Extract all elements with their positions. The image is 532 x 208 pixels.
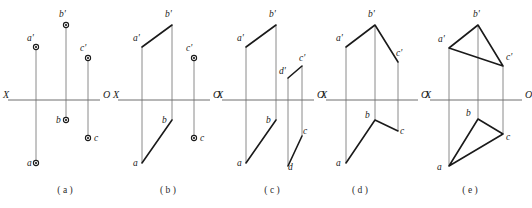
- axis-label-x-b: X: [112, 89, 120, 100]
- edge-a-prime-b-prime-c: [246, 25, 276, 47]
- point-label-c-a: c: [94, 133, 99, 143]
- panel-a: XOb'a'c'bca( a ): [2, 9, 110, 196]
- panel-caption-d: ( d ): [352, 185, 368, 196]
- panel-b: XOc'cb'a'ba( b ): [112, 9, 220, 196]
- vertex-label-b-prime-c: b': [269, 9, 277, 19]
- axis-label-x-c: X: [216, 89, 224, 100]
- vertex-label-b-c: b: [266, 115, 271, 125]
- panel-d: XOb'a'c'bca( d ): [320, 9, 428, 196]
- axis-label-x-a: X: [2, 89, 10, 100]
- vertex-label-a-d: a: [336, 158, 341, 168]
- vertex-label-b-b: b: [162, 115, 167, 125]
- point-label-b-a: b: [56, 115, 61, 125]
- panel-caption-e: ( e ): [462, 185, 477, 196]
- edge-b-a-c: [246, 120, 276, 163]
- axis-label-o-e: O: [525, 89, 532, 100]
- vertex-label-b-e: b: [466, 108, 471, 118]
- orthographic-projection-figure: XOb'a'c'bca( a )XOc'cb'a'ba( b )XOb'a'd'…: [0, 0, 532, 208]
- axis-label-x-d: X: [320, 89, 328, 100]
- point-dot-c-b: [193, 137, 195, 139]
- panel-caption-a: ( a ): [57, 185, 72, 196]
- point-label-c-prime-b: c': [186, 43, 193, 53]
- vertex-label-a-prime-c: a': [237, 33, 245, 43]
- vertex-label-b-d: b: [365, 110, 370, 120]
- vertex-label-a-prime-e: a': [438, 34, 446, 44]
- vertex-label-c-prime-d: c': [396, 48, 403, 58]
- point-dot-a-a: [35, 162, 37, 164]
- axis-label-x-e: X: [424, 89, 432, 100]
- axis-label-o-a: O: [103, 89, 110, 100]
- vertex-label-a-b: a: [133, 158, 138, 168]
- vertex-label-c-c: c: [303, 126, 308, 136]
- point-label-a-a: a: [27, 158, 32, 168]
- vertex-label-c-d: c: [400, 126, 405, 136]
- panel-c: XOb'a'd'c'bcad( c ): [216, 9, 324, 196]
- point-dot-c-a: [87, 137, 89, 139]
- panel-caption-b: ( b ): [160, 185, 176, 196]
- point-label-a-prime-a: a': [27, 33, 35, 43]
- edge-a-prime-b-prime-c-prime-d: [346, 25, 398, 62]
- point-label-c-b: c: [200, 133, 205, 143]
- vertex-label-b-prime-b: b': [165, 9, 173, 19]
- vertex-label-a-e: a: [437, 162, 442, 172]
- edge-a-prime-b-prime-b: [142, 25, 172, 47]
- point-label-b-prime-a: b': [59, 9, 67, 19]
- point-dot-c-prime-b: [193, 57, 195, 59]
- vertex-label-d-prime-c: d': [279, 66, 287, 76]
- edge-b-a-b: [142, 120, 172, 163]
- edge-triangle-lower-e: [449, 119, 503, 166]
- point-dot-a-prime-a: [35, 46, 37, 48]
- panel-caption-c: ( c ): [264, 185, 279, 196]
- vertex-label-c-e: c: [506, 132, 511, 142]
- vertex-label-c-prime-c: c': [299, 53, 306, 63]
- point-dot-b-a: [65, 119, 67, 121]
- vertex-label-a-c: a: [237, 158, 242, 168]
- edge-triangle-upper-e: [449, 25, 503, 66]
- vertex-label-a-prime-b: a': [133, 33, 141, 43]
- vertex-label-b-prime-e: b': [473, 9, 481, 19]
- point-dot-b-prime-a: [65, 24, 67, 26]
- vertex-label-a-prime-d: a': [336, 33, 344, 43]
- figure-canvas: XOb'a'c'bca( a )XOc'cb'a'ba( b )XOb'a'd'…: [0, 0, 532, 208]
- edge-a-b-c-d: [346, 120, 398, 163]
- vertex-label-b-prime-d: b': [368, 9, 376, 19]
- vertex-label-c-prime-e: c': [506, 52, 513, 62]
- panel-e: XOb'a'c'bca( e ): [424, 9, 532, 196]
- vertex-label-d-c: d: [288, 162, 293, 172]
- point-dot-c-prime-a: [87, 57, 89, 59]
- edge-d-prime-c-prime-c: [288, 66, 302, 78]
- point-label-c-prime-a: c': [80, 43, 87, 53]
